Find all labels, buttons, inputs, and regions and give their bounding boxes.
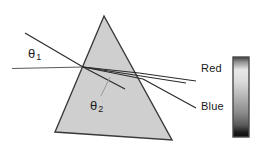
theta2-symbol: θ	[90, 98, 97, 113]
theta1-subscript: 1	[36, 52, 41, 62]
theta2-subscript: 2	[98, 104, 103, 114]
reference-line	[12, 67, 84, 69]
spectrum-colorbar	[233, 57, 249, 137]
theta2-label: θ2	[90, 99, 102, 112]
colorbar-bottom-label: Blue	[201, 101, 224, 112]
theta1-label: θ1	[28, 47, 40, 60]
theta1-symbol: θ	[28, 46, 35, 61]
prism-dispersion-figure: θ1 θ2 Red Blue	[0, 0, 259, 146]
colorbar-top-label: Red	[201, 63, 222, 74]
